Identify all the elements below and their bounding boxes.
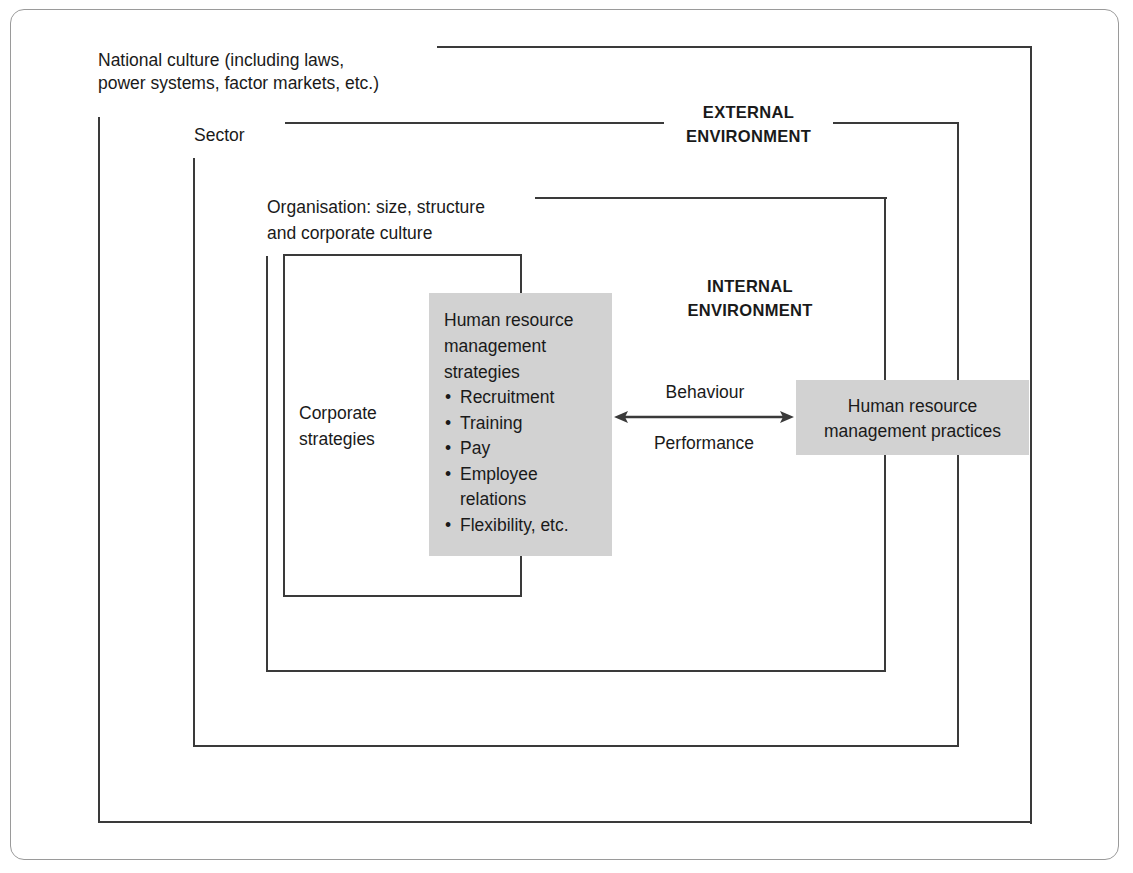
hrm-title-line3: strategies (444, 359, 612, 385)
hrm-item-relations: relations (460, 489, 526, 509)
national-box-top-edge (437, 46, 1032, 48)
behaviour-label: Behaviour (640, 381, 770, 404)
organisation-label-line2: and corporate culture (267, 220, 485, 246)
hrm-item-employee: Employee (460, 464, 538, 484)
external-environment-label: EXTERNAL ENVIRONMENT (664, 100, 833, 148)
external-line1: EXTERNAL (664, 100, 833, 124)
hrm-item-flexibility: Flexibility, etc. (444, 513, 612, 539)
internal-line1: INTERNAL (672, 274, 828, 298)
performance-label: Performance (634, 432, 774, 455)
hrm-item-training: Training (444, 411, 612, 437)
hrm-practices-box: Human resource management practices (796, 380, 1029, 455)
hrm-strategies-box: Human resource management strategies Rec… (429, 293, 612, 556)
organisation-box-top-edge (535, 197, 887, 199)
corporate-label-line1: Corporate (299, 400, 377, 426)
hrm-practices-line2: management practices (796, 419, 1029, 444)
hrm-strategies-title: Human resource management strategies (444, 307, 612, 385)
bidirectional-arrow-icon (612, 408, 796, 426)
hrm-practices-line1: Human resource (796, 394, 1029, 419)
internal-environment-label: INTERNAL ENVIRONMENT (672, 274, 828, 322)
hrm-strategies-list: Recruitment Training Pay Employee relati… (444, 385, 612, 538)
corporate-strategies-label: Corporate strategies (299, 400, 377, 452)
hrm-title-line1: Human resource (444, 307, 612, 333)
organisation-label: Organisation: size, structure and corpor… (267, 194, 485, 246)
national-box-left-edge (98, 117, 100, 823)
national-label-line2: power systems, factor markets, etc.) (98, 72, 379, 95)
organisation-box-left-edge (266, 256, 268, 672)
external-line2: ENVIRONMENT (664, 124, 833, 148)
national-culture-label: National culture (including laws, power … (98, 49, 379, 95)
hrm-item-recruitment: Recruitment (444, 385, 612, 411)
corporate-label-line2: strategies (299, 426, 377, 452)
sector-box-top-edge-right (833, 122, 959, 124)
national-box-bottom-edge (98, 821, 1032, 823)
national-label-line1: National culture (including laws, (98, 49, 379, 72)
organisation-label-line1: Organisation: size, structure (267, 194, 485, 220)
sector-box-bottom-edge (193, 745, 959, 747)
sector-label: Sector (194, 124, 245, 147)
organisation-box-bottom-edge (266, 670, 886, 672)
hrm-item-pay: Pay (444, 436, 612, 462)
hrm-item-employee-relations: Employee relations (444, 462, 612, 513)
sector-box-left-edge (193, 158, 195, 747)
internal-line2: ENVIRONMENT (672, 298, 828, 322)
hrm-title-line2: management (444, 333, 612, 359)
sector-box-top-edge-left (285, 122, 664, 124)
national-box-right-edge (1030, 46, 1032, 824)
